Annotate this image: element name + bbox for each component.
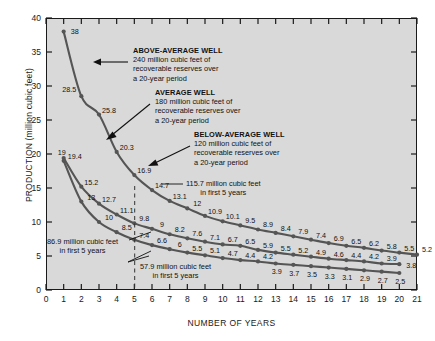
data-point-marker (274, 251, 278, 255)
callout-first5-below-line2: in first 5 years (140, 271, 211, 280)
data-point-value-label: 6.6 (157, 236, 167, 245)
data-point-value-label: 38 (71, 26, 79, 35)
annotation-above-average-line3: a 20-year period (133, 74, 223, 83)
data-point-value-label: 3.9 (387, 254, 397, 263)
data-point-value-label: 13 (87, 192, 95, 201)
data-point-marker (168, 247, 172, 251)
data-point-marker (62, 30, 66, 34)
data-point-value-label: 14.7 (155, 181, 169, 190)
data-point-marker (185, 251, 189, 255)
annotation-average-line3: a 20-year period (155, 116, 240, 125)
data-point-marker (309, 255, 313, 259)
data-point-value-label: 9.8 (139, 214, 149, 223)
data-point-marker (79, 94, 83, 98)
data-point-value-label: 19.4 (68, 152, 82, 161)
data-point-marker (150, 243, 154, 247)
data-point-marker (397, 251, 401, 255)
annotation-above-average-well: ABOVE-AVERAGE WELL 240 million cubic fee… (133, 46, 223, 83)
data-point-marker (344, 258, 348, 262)
callout-first5-above-line1: 115.7 million cubic feet (186, 179, 261, 188)
data-point-value-label: 15.2 (84, 177, 98, 186)
data-point-value-label: 12 (193, 199, 201, 208)
data-point-value-label: 4.6 (334, 249, 344, 258)
data-point-marker (380, 248, 384, 252)
data-point-value-label: 19 (58, 147, 66, 156)
data-point-value-label: 4.2 (263, 252, 273, 261)
data-point-marker (62, 159, 66, 163)
data-point-marker (415, 253, 419, 257)
data-point-marker (115, 150, 119, 154)
data-point-value-label: 7.1 (210, 232, 220, 241)
data-point-value-label: 11.1 (120, 205, 133, 214)
data-point-marker (238, 244, 242, 248)
data-point-value-label: 2.7 (378, 275, 388, 284)
data-point-value-label: 2.9 (360, 274, 370, 283)
annotation-average-well: AVERAGE WELL 180 million cubic feet of r… (155, 88, 240, 125)
data-point-value-label: 6.9 (334, 234, 344, 243)
data-point-marker (274, 231, 278, 235)
data-point-marker (97, 220, 101, 224)
data-point-marker (150, 188, 154, 192)
data-point-marker (309, 238, 313, 242)
data-point-marker (185, 206, 189, 210)
data-point-marker (291, 253, 295, 257)
callout-first5-average-line2: in first 5 years (47, 246, 118, 255)
callout-first5-average-line1: 86.9 million cubic feet (47, 237, 118, 246)
callout-first5-average: 86.9 million cubic feet in first 5 years (47, 237, 118, 255)
annotation-average-line2: recoverable reserves over (155, 106, 240, 115)
data-point-marker (256, 259, 260, 263)
data-point-value-label: 4.2 (369, 252, 379, 261)
data-point-marker (150, 227, 154, 231)
data-point-value-label: 5.5 (192, 243, 202, 252)
data-point-value-label: 5.2 (298, 245, 308, 254)
annotation-below-average-line2: recoverable reserves over (194, 148, 285, 157)
data-point-marker (97, 112, 101, 116)
data-point-value-label: 6 (178, 240, 182, 249)
data-point-marker (291, 263, 295, 267)
data-point-marker (221, 256, 225, 260)
data-point-marker (380, 270, 384, 274)
data-point-value-label: 3.5 (307, 270, 317, 279)
data-point-marker (221, 242, 225, 246)
annotation-below-average-line1: 120 million cubic feet of (194, 139, 285, 148)
data-point-value-label: 5.9 (263, 240, 273, 249)
data-point-value-label: 3.1 (342, 272, 352, 281)
data-point-marker (309, 264, 313, 268)
data-point-marker (256, 248, 260, 252)
callout-first5-below-average: 57.9 million cubic feet in first 5 years (140, 262, 211, 280)
annotation-above-average-line1: 240 million cubic feet of (133, 55, 223, 64)
data-point-value-label: 16.9 (137, 166, 151, 175)
data-point-value-label: 4.7 (228, 249, 238, 258)
data-point-marker (256, 227, 260, 231)
data-point-marker (344, 267, 348, 271)
annotation-below-average-heading: BELOW-AVERAGE WELL (194, 130, 285, 139)
data-point-value-label: 9 (160, 219, 164, 228)
data-point-value-label: 13.1 (173, 191, 187, 200)
annotation-below-average-line3: a 20-year period (194, 158, 285, 167)
annotation-above-average-line2: recoverable reserves over (133, 64, 223, 73)
decline-curve-chart: PRODUCTION (million cubic feet) NUMBER O… (0, 0, 435, 341)
data-point-marker (203, 253, 207, 257)
data-point-marker (185, 236, 189, 240)
data-point-value-label: 3.9 (272, 267, 282, 276)
data-point-value-label: 28.5 (62, 85, 76, 94)
data-point-marker (168, 199, 172, 203)
data-point-marker (132, 173, 136, 177)
data-point-value-label: 20.3 (120, 142, 134, 151)
data-point-value-label: 6.5 (351, 236, 361, 245)
data-point-value-label: 6.2 (369, 238, 379, 247)
data-point-value-label: 8.9 (263, 220, 273, 229)
data-point-value-label: 5.5 (281, 243, 291, 252)
data-point-value-label: 6.7 (228, 235, 238, 244)
annotation-average-line1: 180 million cubic feet of (155, 97, 240, 106)
data-point-marker (203, 214, 207, 218)
data-point-value-label: 10.1 (226, 212, 240, 221)
data-point-marker (327, 265, 331, 269)
data-point-marker (115, 230, 119, 234)
data-point-marker (97, 202, 101, 206)
data-point-value-label: 5.2 (422, 244, 432, 253)
data-point-value-label: 5.8 (387, 241, 397, 250)
data-point-value-label: 6.5 (245, 236, 255, 245)
data-point-marker (327, 257, 331, 261)
data-point-marker (397, 271, 401, 275)
